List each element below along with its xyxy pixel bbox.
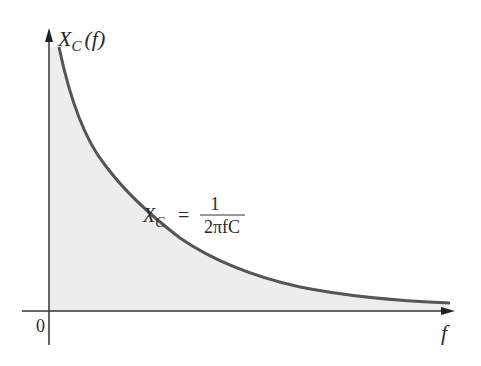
- formula-equals: =: [178, 204, 189, 226]
- y-axis-arrow-icon: [45, 28, 53, 42]
- y-axis-label: XC(f): [57, 26, 105, 54]
- x-axis-label: f: [441, 320, 450, 345]
- formula-denominator: 2πfC: [204, 217, 240, 237]
- formula-numerator: 1: [211, 194, 220, 214]
- chart-canvas: XC(f) 0 f XC = 1 2πfC: [0, 0, 481, 366]
- origin-label: 0: [36, 316, 45, 336]
